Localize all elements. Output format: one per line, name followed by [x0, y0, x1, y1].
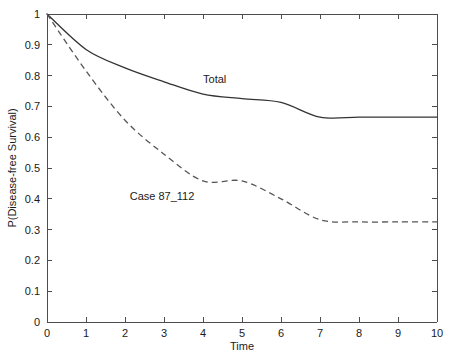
- chart-figure: 01234567891000.10.20.30.40.50.60.70.80.9…: [0, 0, 456, 362]
- y-tick-label: 0: [34, 316, 40, 328]
- y-tick-label: 0.8: [25, 70, 40, 82]
- y-tick-label: 0.1: [25, 285, 40, 297]
- y-axis-title: P(Disease-free Survival): [6, 108, 18, 227]
- series-label-2: Case 87_112: [130, 190, 195, 202]
- x-tick-label: 2: [122, 327, 128, 339]
- y-tick-label: 0.7: [25, 100, 40, 112]
- x-tick-label: 4: [200, 327, 206, 339]
- y-tick-label: 0.2: [25, 254, 40, 266]
- x-tick-label: 6: [278, 327, 284, 339]
- y-tick-label: 0.6: [25, 131, 40, 143]
- series-line-1: [47, 14, 437, 118]
- x-tick-label: 0: [44, 327, 50, 339]
- survival-curve-plot: 01234567891000.10.20.30.40.50.60.70.80.9…: [0, 0, 456, 362]
- x-tick-label: 1: [83, 327, 89, 339]
- y-tick-label: 0.3: [25, 224, 40, 236]
- data-series: [47, 14, 437, 222]
- y-tick-label: 0.9: [25, 39, 40, 51]
- x-tick-label: 5: [239, 327, 245, 339]
- y-tick-label: 0.5: [25, 162, 40, 174]
- axis-tick-labels: 01234567891000.10.20.30.40.50.60.70.80.9…: [25, 8, 443, 339]
- y-tick-label: 1: [34, 8, 40, 20]
- series-label-1: Total: [203, 73, 226, 85]
- x-tick-label: 8: [356, 327, 362, 339]
- x-tick-label: 10: [431, 327, 443, 339]
- x-tick-label: 3: [161, 327, 167, 339]
- x-axis-title: Time: [230, 340, 254, 352]
- series-line-2: [47, 14, 437, 222]
- x-tick-label: 9: [395, 327, 401, 339]
- y-tick-label: 0.4: [25, 193, 40, 205]
- x-tick-label: 7: [317, 327, 323, 339]
